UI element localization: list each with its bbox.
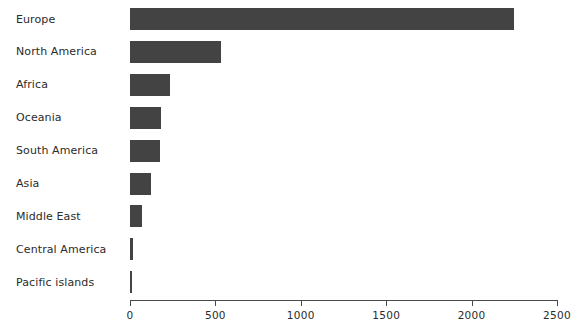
bar bbox=[130, 205, 142, 227]
x-axis-tick bbox=[130, 300, 131, 306]
x-axis-line bbox=[130, 300, 557, 301]
category-label: Oceania bbox=[16, 112, 62, 123]
category-label: Middle East bbox=[16, 211, 81, 222]
x-axis-tick bbox=[215, 300, 216, 306]
category-label: South America bbox=[16, 145, 98, 156]
x-axis-tick-label: 500 bbox=[205, 309, 226, 321]
category-axis-labels: Europe North America Africa Oceania Sout… bbox=[0, 0, 120, 295]
x-axis-tick bbox=[472, 300, 473, 306]
x-axis-tick bbox=[386, 300, 387, 306]
bar bbox=[130, 8, 514, 30]
category-label: North America bbox=[16, 46, 97, 57]
x-axis-tick bbox=[301, 300, 302, 306]
category-label: Africa bbox=[16, 79, 48, 90]
plot-area bbox=[130, 0, 557, 295]
x-axis-tick-label: 0 bbox=[127, 309, 134, 321]
x-axis-tick-label: 1000 bbox=[287, 309, 315, 321]
category-label: Europe bbox=[16, 14, 55, 25]
x-axis-tick-label: 2000 bbox=[458, 309, 486, 321]
bar bbox=[130, 74, 170, 96]
bar bbox=[130, 41, 221, 63]
x-axis-tick bbox=[557, 300, 558, 306]
bar bbox=[130, 140, 160, 162]
bar bbox=[130, 271, 132, 293]
category-label: Central America bbox=[16, 244, 106, 255]
x-axis-tick-label: 2500 bbox=[543, 309, 571, 321]
bar bbox=[130, 173, 151, 195]
bar bbox=[130, 238, 133, 260]
bar-chart: Europe North America Africa Oceania Sout… bbox=[0, 0, 584, 333]
x-axis-tick-label: 1500 bbox=[372, 309, 400, 321]
bar bbox=[130, 107, 161, 129]
category-label: Pacific islands bbox=[16, 277, 94, 288]
category-label: Asia bbox=[16, 178, 39, 189]
